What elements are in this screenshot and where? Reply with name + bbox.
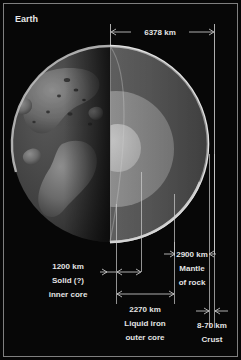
earth-surface-hemisphere (4, 36, 111, 256)
inner-core-callout: 1200 km Solid (?) inner core (49, 262, 141, 299)
figure-title: Earth (15, 14, 38, 24)
outer-core-distance: 2270 km (129, 305, 161, 314)
mantle-composition: of rock (179, 278, 206, 287)
crust-distance: 8-70 km (197, 321, 227, 330)
earth-cutaway-figure: Earth 6378 km (0, 0, 241, 360)
mantle-name: Mantle (179, 264, 205, 273)
radius-dimension-label: 6378 km (144, 28, 176, 37)
outer-core-callout: 2270 km Liquid iron outer core (117, 291, 174, 342)
inner-core-name: inner core (49, 290, 88, 299)
figure-frame: Earth 6378 km (3, 3, 238, 357)
mantle-callout: 2900 km Mantle of rock (164, 250, 216, 287)
earth-diagram-svg: Earth 6378 km (4, 4, 238, 357)
inner-core-distance: 1200 km (52, 262, 84, 271)
outer-core-name: outer core (125, 333, 165, 342)
inner-core-state: Solid (?) (52, 276, 84, 285)
crust-name: Crust (202, 335, 223, 344)
crust-callout: 8-70 km Crust (196, 308, 228, 344)
outer-core-composition: Liquid iron (124, 319, 165, 328)
mantle-distance: 2900 km (176, 250, 208, 259)
earth-sphere (4, 36, 208, 256)
